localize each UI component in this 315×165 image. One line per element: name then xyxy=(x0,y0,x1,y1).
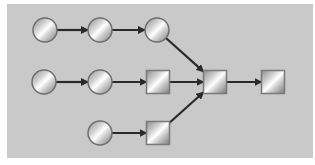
square-node-s2 xyxy=(147,122,170,145)
flow-diagram xyxy=(0,0,315,165)
circle-node-c5 xyxy=(88,70,112,94)
circle-node-c1 xyxy=(33,18,57,42)
circle-node-c4 xyxy=(32,70,56,94)
arrow-s2-to-s3 xyxy=(170,92,204,122)
square-node-s1 xyxy=(147,71,170,94)
circle-node-c6 xyxy=(88,121,112,145)
arrow-c3-to-s3 xyxy=(166,38,204,72)
circle-node-c2 xyxy=(88,18,112,42)
square-node-s4 xyxy=(262,71,285,94)
circle-node-c3 xyxy=(145,18,169,42)
square-node-s3 xyxy=(204,71,227,94)
